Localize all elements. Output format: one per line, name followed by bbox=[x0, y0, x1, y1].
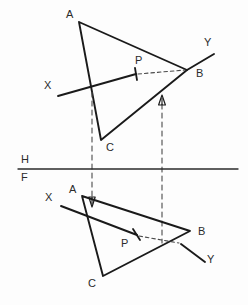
top-view-label-c: C bbox=[106, 142, 114, 153]
front-view-label-c: C bbox=[88, 278, 96, 289]
front-view-label-x: X bbox=[45, 192, 53, 203]
fold-line-label-f: F bbox=[21, 172, 28, 183]
front-view-label-a: A bbox=[69, 184, 77, 195]
top-view-label-x: X bbox=[44, 80, 52, 91]
top-view-line-xy-visible bbox=[58, 74, 136, 96]
front-view-label-y: Y bbox=[207, 254, 215, 265]
top-view-tick-mark bbox=[135, 68, 137, 80]
top-view-line-xy-hidden bbox=[138, 70, 185, 74]
front-view-label-p: P bbox=[121, 238, 129, 249]
top-view-triangle-abc bbox=[79, 22, 187, 140]
top-view-label-y: Y bbox=[204, 37, 212, 48]
front-view-label-b: B bbox=[198, 226, 206, 237]
top-view-label-b: B bbox=[196, 68, 204, 79]
front-view-group bbox=[61, 196, 205, 276]
fold-line-label-h: H bbox=[21, 154, 29, 165]
front-view-triangle-abc bbox=[82, 196, 190, 276]
front-view-line-xy-to-y bbox=[181, 244, 205, 262]
top-view-label-a: A bbox=[66, 9, 74, 20]
descriptive-geometry-figure: A B C X Y P H F A B C X Y P bbox=[0, 0, 248, 305]
top-view-label-p: P bbox=[135, 55, 143, 66]
